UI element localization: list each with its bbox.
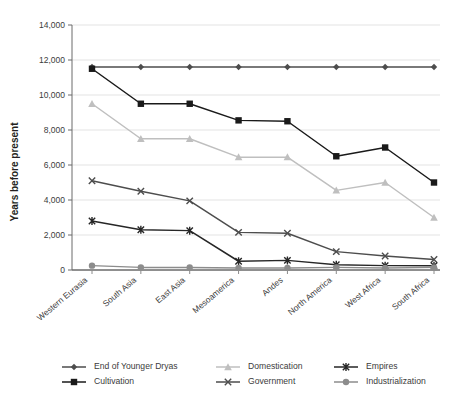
y-tick-label: 14,000	[39, 20, 65, 30]
legend-label: Industrialization	[366, 376, 426, 386]
data-point-marker	[382, 265, 388, 271]
x-tick-label: Western Eurasia	[35, 275, 90, 323]
data-point-marker	[88, 100, 96, 107]
x-tick-label: South Africa	[390, 275, 432, 312]
y-tick-label: 10,000	[39, 90, 65, 100]
data-point-marker	[138, 264, 144, 270]
y-axis-title-text: Years before present	[9, 122, 20, 222]
legend-item-domestication[interactable]: Domestication	[216, 361, 303, 371]
series-end-of-younger-dryas	[89, 64, 437, 70]
legend-label: End of Younger Dryas	[94, 361, 178, 371]
legend-item-industrialization[interactable]: Industrialization	[334, 376, 426, 386]
chart-container: 02,0004,0006,0008,00010,00012,00014,000 …	[0, 0, 452, 400]
y-tick-label: 4,000	[44, 195, 66, 205]
data-point-marker	[138, 101, 144, 107]
series-cultivation	[89, 66, 437, 186]
data-point-marker	[187, 264, 193, 270]
legend-label: Empires	[366, 361, 398, 371]
data-point-marker	[187, 64, 193, 70]
chart-legend: End of Younger DryasCultivationDomestica…	[62, 361, 426, 386]
line-chart-svg: 02,0004,0006,0008,00010,00012,00014,000 …	[0, 0, 452, 400]
legend-label: Cultivation	[94, 376, 134, 386]
data-point-marker	[333, 264, 339, 270]
data-point-marker	[431, 264, 437, 270]
legend-label: Government	[248, 376, 296, 386]
data-point-marker	[89, 262, 95, 268]
x-tick-label: South Asia	[101, 275, 139, 309]
data-point-marker	[431, 179, 437, 185]
data-point-marker	[235, 117, 241, 123]
y-axis-title: Years before present	[9, 122, 20, 222]
x-tick-label: East Asia	[153, 275, 187, 306]
legend-label: Domestication	[248, 361, 303, 371]
data-point-marker	[235, 265, 241, 271]
data-point-marker	[138, 64, 144, 70]
data-point-marker	[71, 364, 77, 370]
series-domestication	[88, 100, 438, 221]
data-point-marker	[89, 66, 95, 72]
x-tick-label: West Africa	[343, 275, 382, 310]
data-point-marker	[284, 64, 290, 70]
data-point-marker	[235, 64, 241, 70]
series-line	[92, 181, 434, 260]
x-tick-label: Andes	[260, 275, 285, 298]
data-point-marker	[382, 144, 388, 150]
y-tick-label: 2,000	[44, 230, 66, 240]
y-tick-label: 6,000	[44, 160, 66, 170]
y-tick-label: 8,000	[44, 125, 66, 135]
legend-item-empires[interactable]: Empires	[334, 361, 398, 371]
y-tick-label: 12,000	[39, 55, 65, 65]
data-point-marker	[284, 265, 290, 271]
y-axis-ticks: 02,0004,0006,0008,00010,00012,00014,000	[39, 20, 72, 275]
legend-item-government[interactable]: Government	[216, 376, 296, 386]
data-point-marker	[343, 379, 349, 385]
data-point-marker	[284, 118, 290, 124]
data-point-marker	[431, 64, 437, 70]
x-tick-label: Mesoamerica	[190, 275, 236, 316]
data-point-marker	[333, 64, 339, 70]
legend-item-end-of-younger-dryas[interactable]: End of Younger Dryas	[62, 361, 178, 371]
x-tick-label: North America	[286, 275, 334, 317]
x-axis-ticks: Western EurasiaSouth AsiaEast AsiaMesoam…	[35, 270, 434, 323]
data-point-marker	[187, 101, 193, 107]
data-point-marker	[382, 64, 388, 70]
y-tick-label: 0	[60, 265, 65, 275]
legend-item-cultivation[interactable]: Cultivation	[62, 376, 134, 386]
data-point-marker	[71, 379, 77, 385]
series-government	[89, 178, 437, 263]
data-point-marker	[333, 153, 339, 159]
series-empires	[89, 217, 437, 270]
